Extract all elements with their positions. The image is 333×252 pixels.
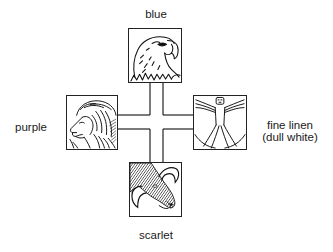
lion-head-icon (67, 96, 117, 149)
label-purple: purple (6, 121, 56, 133)
eagle-panel (128, 28, 182, 83)
label-blue: blue (126, 8, 186, 20)
label-dull-white: (dull white) (254, 131, 326, 143)
label-fine-linen: fine linen (254, 119, 326, 131)
lion-panel (66, 95, 118, 150)
man-panel (193, 95, 247, 150)
human-figure-icon (194, 96, 246, 149)
eagle-head-icon (129, 29, 181, 82)
label-scarlet: scarlet (126, 229, 186, 241)
ox-panel (129, 162, 182, 217)
ox-head-icon (130, 163, 181, 216)
